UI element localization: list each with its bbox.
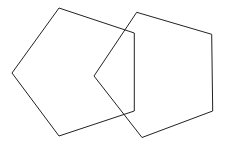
diagram-canvas: [0, 0, 227, 144]
background: [0, 0, 227, 144]
